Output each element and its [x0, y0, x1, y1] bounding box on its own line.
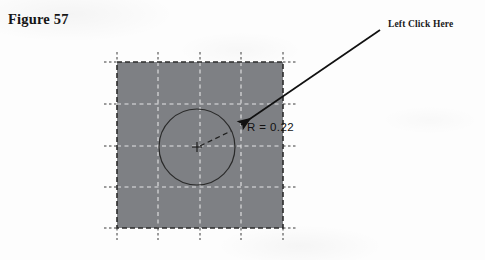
figure-drawing-canvas: [0, 0, 485, 260]
radius-dimension-label: R = 0.22: [247, 121, 294, 133]
grid-stubs-left: [104, 62, 117, 228]
grid-stubs-bottom: [117, 228, 283, 240]
grid-stubs-right: [283, 62, 296, 228]
grid-stubs-top: [117, 52, 283, 62]
figure-page: Figure 57 Left Click Here: [0, 0, 485, 260]
